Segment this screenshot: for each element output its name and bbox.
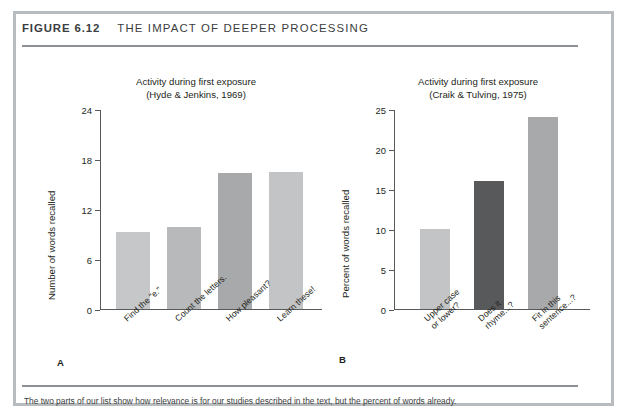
- y-tick-label: 5: [381, 265, 386, 276]
- chart-b-y-axis: [394, 110, 395, 310]
- y-tick-label: 12: [82, 205, 92, 216]
- panel-letter-b: B: [339, 354, 346, 365]
- y-tick-mark: [95, 110, 100, 111]
- figure-page: FIGURE 6.12 THE IMPACT OF DEEPER PROCESS…: [0, 0, 627, 410]
- y-tick-label: 0: [87, 305, 92, 316]
- y-tick-label: 10: [376, 225, 386, 236]
- bar: [269, 172, 303, 310]
- y-tick-label: 20: [376, 145, 386, 156]
- chart-panel-a: Activity during first exposure (Hyde & J…: [32, 60, 322, 380]
- chart-a-title: Activity during first exposure: [136, 76, 256, 87]
- footer-divider: [22, 385, 578, 387]
- y-tick-label: 6: [87, 255, 92, 266]
- y-tick-mark: [389, 190, 394, 191]
- figure-number: FIGURE 6.12: [22, 22, 100, 34]
- panel-letter-a: A: [57, 357, 64, 368]
- y-tick-mark: [389, 150, 394, 151]
- y-tick-mark: [95, 160, 100, 161]
- y-tick-mark: [389, 270, 394, 271]
- chart-a-title-block: Activity during first exposure (Hyde & J…: [32, 76, 322, 101]
- y-tick-label: 24: [82, 105, 92, 116]
- chart-b-title: Activity during first exposure: [418, 76, 538, 87]
- chart-b-title-block: Activity during first exposure (Craik & …: [330, 76, 600, 101]
- y-tick-label: 0: [381, 305, 386, 316]
- y-tick-mark: [95, 210, 100, 211]
- y-tick-label: 25: [376, 105, 386, 116]
- chart-a-ylabel: Number of words recalled: [46, 191, 57, 300]
- bar: [528, 117, 558, 309]
- y-tick-label: 15: [376, 185, 386, 196]
- header-divider: [22, 45, 578, 47]
- chart-b-ylabel: Percent of words recalled: [340, 190, 351, 298]
- bar: [218, 173, 252, 309]
- y-tick-mark: [389, 230, 394, 231]
- bar: [474, 181, 504, 309]
- y-tick-mark: [389, 110, 394, 111]
- chart-b-plot-area: 0510152025: [394, 110, 579, 310]
- figure-header: FIGURE 6.12 THE IMPACT OF DEEPER PROCESS…: [22, 22, 578, 34]
- figure-title: THE IMPACT OF DEEPER PROCESSING: [117, 22, 369, 34]
- y-tick-label: 18: [82, 155, 92, 166]
- y-tick-mark: [95, 260, 100, 261]
- chart-panel-b: Activity during first exposure (Craik & …: [330, 60, 600, 380]
- chart-a-y-axis: [100, 110, 101, 310]
- chart-a-subtitle: (Hyde & Jenkins, 1969): [70, 89, 322, 102]
- y-tick-mark: [95, 310, 100, 311]
- chart-b-subtitle: (Craik & Tulving, 1975): [356, 89, 600, 102]
- chart-a-plot-area: 06121824: [100, 110, 320, 310]
- figure-caption: The two parts of our list show how relev…: [24, 396, 580, 408]
- y-tick-mark: [389, 310, 394, 311]
